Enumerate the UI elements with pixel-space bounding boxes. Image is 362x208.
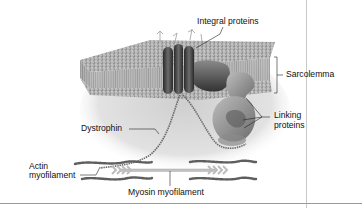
label-myosin-myofilament: Myosin myofilament (128, 188, 204, 198)
label-actin-line2: myofilament (29, 171, 75, 181)
actin-leader (80, 167, 100, 175)
label-integral-proteins: Integral proteins (197, 17, 259, 27)
label-linking-proteins-line2: proteins (274, 121, 305, 131)
label-dystrophin: Dystrophin (81, 124, 122, 134)
label-sarcolemma: Sarcolemma (286, 70, 334, 80)
